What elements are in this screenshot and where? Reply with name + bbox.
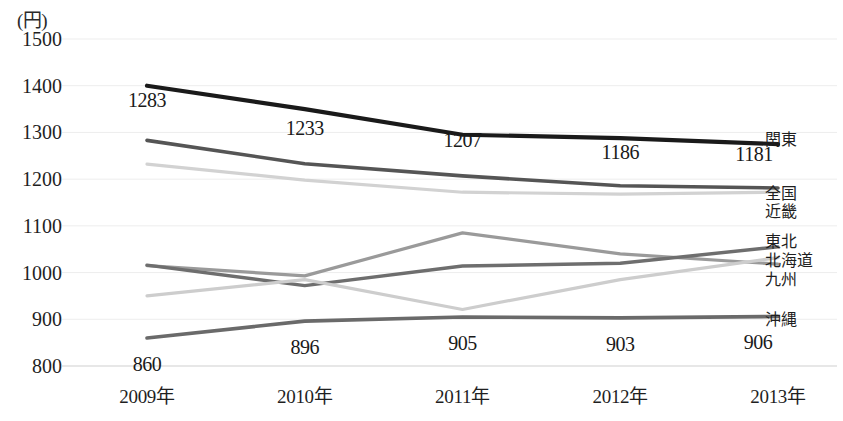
data-point-label: 1283 xyxy=(128,89,166,112)
y-axis-tick-label: 1100 xyxy=(0,214,62,237)
data-point-label: 896 xyxy=(291,336,320,359)
y-axis-tick-label: 1400 xyxy=(0,74,62,97)
series-line-4 xyxy=(147,247,778,286)
legend-label-5: 九州 xyxy=(765,266,797,290)
x-axis-tick-label: 2012年 xyxy=(592,381,648,408)
y-axis-tick-label: 1500 xyxy=(0,28,62,51)
data-point-label: 903 xyxy=(606,332,635,355)
y-axis-tick-label: 1000 xyxy=(0,261,62,284)
y-axis: 800900100011001200130014001500 xyxy=(0,0,62,421)
data-point-label: 1233 xyxy=(286,116,324,139)
legend-label-0: 関東 xyxy=(765,126,797,150)
y-axis-tick-label: 800 xyxy=(0,355,62,378)
data-point-label: 906 xyxy=(744,331,773,354)
line-chart: (円) 800900100011001200130014001500 12831… xyxy=(0,0,843,421)
data-point-label: 1207 xyxy=(444,128,482,151)
y-axis-tick-label: 1300 xyxy=(0,121,62,144)
data-point-label: 860 xyxy=(133,352,162,375)
data-point-label: 1186 xyxy=(602,140,639,163)
legend-label-2: 近畿 xyxy=(765,198,797,222)
x-axis-tick-label: 2013年 xyxy=(750,381,806,408)
y-axis-tick-label: 900 xyxy=(0,308,62,331)
x-axis-tick-label: 2010年 xyxy=(277,381,333,408)
x-axis-tick-label: 2011年 xyxy=(435,381,490,408)
plot-area: 128312331207118611818608969059039062009年… xyxy=(62,0,843,421)
y-axis-tick-label: 1200 xyxy=(0,168,62,191)
data-point-label: 905 xyxy=(448,331,477,354)
chart-canvas xyxy=(62,0,843,421)
x-axis-tick-label: 2009年 xyxy=(119,381,175,408)
legend-label-6: 沖縄 xyxy=(765,306,797,330)
